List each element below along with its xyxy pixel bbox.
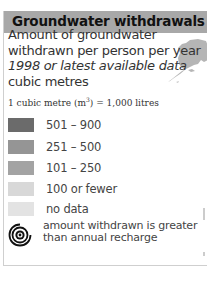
map-edge-mark (203, 208, 205, 220)
swatch-dark (8, 118, 34, 132)
legend-class-label: 251 – 500 (46, 140, 101, 154)
legend-class-label: 100 or fewer (46, 182, 117, 196)
legend-class-label: no data (46, 202, 88, 216)
subtitle-data-year: 1998 or latest available data (8, 58, 201, 74)
swatch-medium (8, 161, 34, 175)
swatch-light (8, 182, 34, 196)
legend-class-no-data: no data (8, 201, 88, 217)
unit-conversion-note: 1 cubic metre (m3) = 1,000 litres (8, 96, 159, 108)
legend-subtitle: Amount of groundwater withdrawn per pers… (8, 27, 201, 89)
recharge-symbol-label: amount withdrawn is greater than annual … (43, 220, 197, 243)
legend-class-100-or-fewer: 100 or fewer (8, 181, 117, 197)
subtitle-line-1: Amount of groundwater (8, 27, 201, 43)
legend-class-251-500: 251 – 500 (8, 139, 101, 155)
swatch-no-data (8, 202, 34, 216)
subtitle-line-2: withdrawn per person per year (8, 43, 201, 59)
spiral-icon (8, 223, 32, 247)
swatch-medium-dark (8, 140, 34, 154)
subtitle-unit: cubic metres (8, 74, 201, 90)
legend-class-label: 501 – 900 (46, 118, 101, 132)
legend-class-101-250: 101 – 250 (8, 160, 101, 176)
map-edge-mark (203, 252, 205, 256)
legend-class-501-900: 501 – 900 (8, 117, 101, 133)
legend-class-label: 101 – 250 (46, 161, 101, 175)
legend-recharge-symbol: amount withdrawn is greater than annual … (8, 220, 197, 247)
